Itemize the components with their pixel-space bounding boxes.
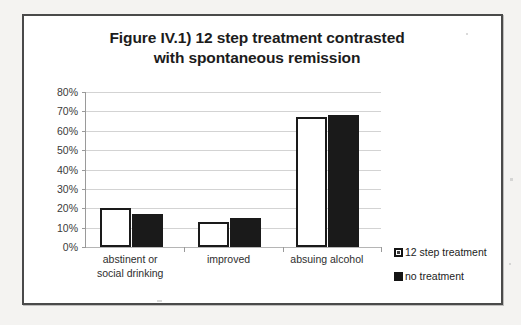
x-axis-category-label-line: absuing alcohol — [265, 252, 389, 266]
y-axis-tick-label: 80% — [57, 86, 78, 98]
x-axis-category-label-line: social drinking — [68, 266, 192, 280]
scan-speckle — [509, 263, 511, 265]
chart-title-line-1: Figure IV.1) 12 step treatment contraste… — [42, 28, 472, 48]
y-axis-tick-label: 40% — [57, 164, 78, 176]
gridline — [86, 247, 381, 248]
chart-legend: 12 step treatmentno treatment — [394, 246, 512, 294]
legend-item-label: 12 step treatment — [405, 246, 487, 258]
y-axis-tick-label: 10% — [57, 222, 78, 234]
bar-twelve-step-treatment — [296, 117, 327, 247]
x-axis-category-labels: abstinent orsocial drinkingimprovedabsui… — [85, 252, 380, 292]
x-axis-category-label: absuing alcohol — [265, 252, 389, 266]
bar-no-treatment — [132, 214, 163, 247]
y-axis-tick-label: 70% — [57, 105, 78, 117]
scan-speckle — [466, 33, 468, 35]
plot-area — [85, 92, 381, 247]
chart-title: Figure IV.1) 12 step treatment contraste… — [42, 28, 472, 68]
legend-item-label: no treatment — [405, 270, 464, 282]
y-axis-tick-label: 30% — [57, 183, 78, 195]
chart-title-line-2: with spontaneous remission — [42, 48, 472, 68]
y-axis-tick-label: 20% — [57, 202, 78, 214]
white-square-icon — [394, 248, 403, 257]
y-axis-tick-mark — [82, 247, 86, 248]
y-axis-tick-labels: 0%10%20%30%40%50%60%70%80% — [32, 92, 78, 247]
legend-item[interactable]: no treatment — [394, 270, 512, 282]
scan-speckle — [157, 300, 162, 302]
bar-twelve-step-treatment — [100, 208, 131, 247]
y-axis-tick-label: 60% — [57, 125, 78, 137]
bar-twelve-step-treatment — [198, 222, 229, 247]
black-square-icon — [394, 272, 403, 281]
bar-no-treatment — [230, 218, 261, 247]
chart-frame: Figure IV.1) 12 step treatment contraste… — [22, 14, 503, 305]
bar-no-treatment — [328, 115, 359, 247]
scan-speckle — [510, 178, 513, 181]
bars-layer — [86, 92, 381, 247]
plot-region: 0%10%20%30%40%50%60%70%80% abstinent ors… — [24, 78, 501, 303]
y-axis-tick-label: 50% — [57, 144, 78, 156]
legend-item[interactable]: 12 step treatment — [394, 246, 512, 258]
